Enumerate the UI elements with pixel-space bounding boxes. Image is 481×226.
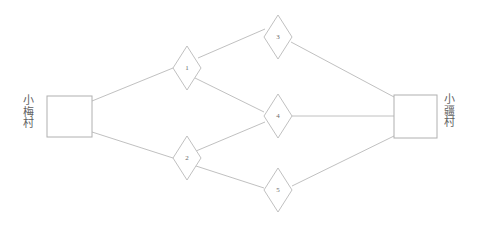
edge-node-5-to-right-village (292, 136, 394, 186)
edge-layer (92, 29, 394, 188)
node-4-label: 4 (276, 112, 280, 120)
node-4[interactable]: 4 (264, 94, 292, 138)
right-village-label: 小疆村 (443, 93, 455, 128)
right-village-box[interactable] (394, 95, 437, 138)
node-5[interactable]: 5 (264, 168, 292, 212)
edge-left-village-to-node-2 (92, 132, 173, 158)
node-1[interactable]: 1 (173, 46, 201, 90)
left-village-box[interactable] (47, 96, 92, 137)
edge-node-1-to-node-3 (198, 29, 265, 58)
node-2[interactable]: 2 (173, 136, 201, 180)
node-5-label: 5 (276, 186, 280, 194)
node-2-label: 2 (185, 154, 189, 162)
edge-left-village-to-node-1 (92, 68, 173, 101)
graph-canvas: 1 2 3 4 5 (0, 0, 481, 226)
edge-node-2-to-node-5 (196, 166, 264, 188)
edge-node-3-to-right-village (291, 42, 394, 97)
edge-node-2-to-node-4 (196, 122, 265, 151)
node-layer: 1 2 3 4 5 (173, 15, 292, 212)
node-3-label: 3 (276, 33, 280, 41)
node-1-label: 1 (185, 64, 189, 72)
network-diagram: 1 2 3 4 5 小梅村 小疆村 (0, 0, 481, 226)
node-3[interactable]: 3 (264, 15, 292, 59)
left-village-label: 小梅村 (22, 94, 34, 129)
edge-node-1-to-node-4 (195, 78, 264, 112)
